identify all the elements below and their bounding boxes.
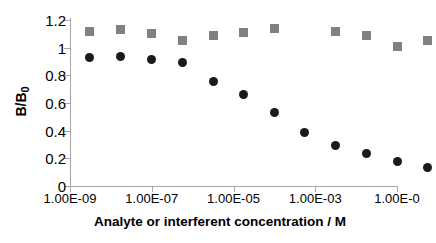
data-point-interferent — [209, 31, 218, 40]
data-point-analyte — [423, 163, 432, 172]
data-point-analyte — [331, 141, 340, 150]
data-point-analyte — [270, 108, 279, 117]
x-tick-label: 1.00E-03 — [270, 192, 360, 205]
y-tick-label: 0.2 — [22, 151, 66, 166]
data-point-interferent — [178, 36, 187, 45]
y-axis-title: B/B0 — [13, 71, 32, 131]
x-tick-label: 1.00E-05 — [189, 192, 279, 205]
data-point-interferent — [393, 42, 402, 51]
data-point-analyte — [85, 53, 94, 62]
data-point-interferent — [331, 27, 340, 36]
data-point-interferent — [147, 29, 156, 38]
data-point-analyte — [178, 58, 187, 67]
data-point-interferent — [116, 25, 125, 34]
data-point-analyte — [239, 90, 248, 99]
chart-figure: 00.20.40.60.811.2 1.00E-091.00E-071.00E-… — [0, 0, 436, 243]
data-point-analyte — [209, 77, 218, 86]
y-axis-title-subscript: 0 — [19, 86, 31, 92]
data-point-analyte — [362, 149, 371, 158]
x-tick-label: 1.00E-0 — [352, 192, 436, 205]
plot-area — [70, 20, 397, 186]
data-point-interferent — [423, 36, 432, 45]
data-point-analyte — [116, 52, 125, 61]
data-point-interferent — [362, 31, 371, 40]
x-axis-title: Analyte or interferent concentration / M — [40, 214, 400, 229]
data-point-analyte — [147, 55, 156, 64]
y-tick-label: 1 — [22, 41, 66, 56]
x-tick-label: 1.00E-09 — [25, 192, 115, 205]
y-axis-title-base: B/B — [13, 92, 29, 116]
data-point-interferent — [85, 27, 94, 36]
data-point-analyte — [393, 157, 402, 166]
x-tick-label: 1.00E-07 — [107, 192, 197, 205]
data-point-interferent — [239, 28, 248, 37]
data-point-interferent — [270, 24, 279, 33]
data-point-analyte — [300, 128, 309, 137]
y-tick-label: 1.2 — [22, 13, 66, 28]
